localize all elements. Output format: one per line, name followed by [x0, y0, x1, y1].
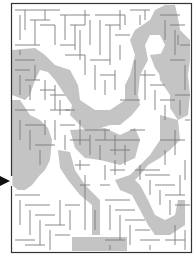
- entrance-arrow-icon: [0, 176, 10, 186]
- maze-puzzle: [0, 0, 195, 259]
- rooster-silhouette: [12, 5, 190, 251]
